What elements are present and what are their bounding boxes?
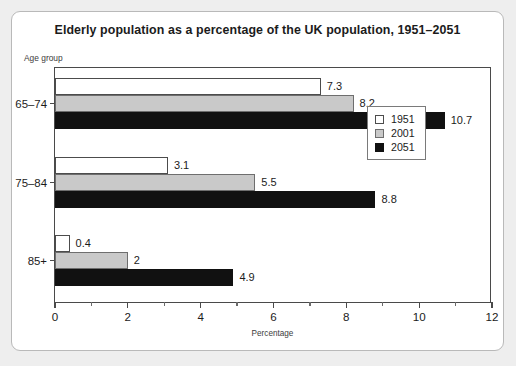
bar-6574-1951 [55, 78, 321, 95]
bar-value-label: 2 [134, 252, 140, 269]
x-axis-minor-tick [91, 302, 92, 306]
legend-swatch-2001 [375, 129, 384, 138]
x-axis-label: Percentage [55, 329, 490, 338]
x-axis-tick-label: 12 [486, 310, 499, 323]
y-axis-tick-label: 65–74 [15, 98, 47, 110]
bar-value-label: 3.1 [174, 157, 189, 174]
bar-7584-1951 [55, 157, 168, 174]
x-axis-minor-tick [382, 302, 383, 306]
bar-value-label: 0.4 [76, 235, 91, 252]
y-axis-tick-label: 75–84 [15, 177, 47, 189]
x-axis-tick-label: 10 [413, 310, 426, 323]
y-axis-tick [50, 182, 55, 183]
legend-item-2051: 2051 [375, 140, 415, 154]
bar-6574-2001 [55, 95, 354, 112]
bar-value-label: 4.9 [239, 269, 254, 286]
bar-value-label: 5.5 [261, 174, 276, 191]
x-axis-minor-tick [309, 302, 310, 306]
y-axis-tick [50, 260, 55, 261]
bar-value-label: 7.3 [327, 78, 342, 95]
bar-7584-2001 [55, 174, 255, 191]
bars-layer: 7.38.210.73.15.58.80.424.9 [55, 68, 490, 302]
x-axis-tick [346, 302, 347, 308]
x-axis-minor-tick [455, 302, 456, 306]
x-axis-minor-tick [164, 302, 165, 306]
x-axis-tick [419, 302, 420, 308]
x-axis-tick-label: 2 [125, 310, 131, 323]
legend-label: 2001 [391, 127, 415, 139]
page-background: Elderly population as a percentage of th… [0, 0, 516, 366]
y-axis-label: Age group [24, 53, 63, 63]
y-axis-tick-label: 85+ [28, 255, 47, 267]
legend-label: 2051 [391, 141, 415, 153]
bar-value-label: 10.7 [451, 112, 472, 129]
y-axis-tick [50, 103, 55, 104]
x-axis-tick [491, 302, 492, 308]
x-axis-tick-label: 6 [270, 310, 276, 323]
x-axis-tick [273, 302, 274, 308]
legend-swatch-1951 [375, 115, 384, 124]
bar-85+-2051 [55, 269, 233, 286]
bar-value-label: 8.8 [381, 191, 396, 208]
legend-swatch-2051 [375, 143, 384, 152]
legend-item-1951: 1951 [375, 112, 415, 126]
bar-85+-1951 [55, 235, 70, 252]
x-axis-tick [54, 302, 55, 308]
x-axis-minor-tick [236, 302, 237, 306]
page-title: Elderly population as a percentage of th… [12, 23, 503, 37]
chart-legend: 195120012051 [367, 106, 426, 160]
legend-label: 1951 [391, 113, 415, 125]
x-axis-tick [200, 302, 201, 308]
chart-card: Elderly population as a percentage of th… [11, 11, 504, 351]
plot-area: 7.38.210.73.15.58.80.424.9 Percentage 65… [54, 67, 491, 303]
legend-item-2001: 2001 [375, 126, 415, 140]
bar-7584-2051 [55, 191, 375, 208]
bar-85+-2001 [55, 252, 128, 269]
x-axis-tick-label: 8 [343, 310, 349, 323]
x-axis-tick [127, 302, 128, 308]
x-axis-tick-label: 4 [197, 310, 203, 323]
x-axis-tick-label: 0 [52, 310, 58, 323]
